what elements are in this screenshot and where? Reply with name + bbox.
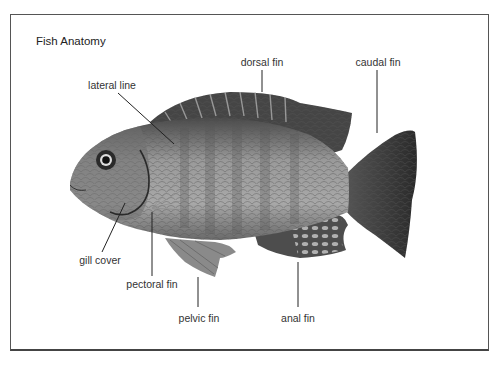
label-caudal-fin: caudal fin bbox=[356, 56, 401, 68]
label-pectoral-fin: pectoral fin bbox=[126, 278, 177, 290]
label-dorsal-fin: dorsal fin bbox=[241, 56, 284, 68]
label-gill-cover: gill cover bbox=[79, 254, 120, 266]
label-pelvic-fin: pelvic fin bbox=[179, 312, 220, 324]
label-lateral-line: lateral line bbox=[88, 79, 136, 91]
label-anal-fin: anal fin bbox=[281, 312, 315, 324]
